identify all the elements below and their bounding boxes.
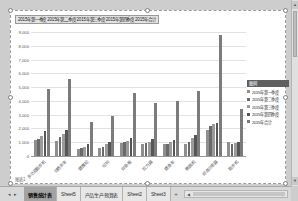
vscroll-up-icon[interactable]: ▲: [292, 1, 298, 9]
plot-area[interactable]: [31, 32, 246, 157]
bar-2015年合计-拉力器[interactable]: [154, 103, 157, 156]
legend-label: 2015年第一季度: [252, 89, 279, 95]
y-tick-label: 2,000: [13, 126, 29, 131]
bar-2015年合计-仰卧板[interactable]: [133, 93, 136, 156]
tab-scroll-right-icon[interactable]: ▸: [14, 191, 17, 197]
selection-handle-top-center[interactable]: [145, 8, 150, 13]
bar-2015年合计-动感单车[interactable]: [68, 79, 71, 156]
y-tick-label: 0: [13, 154, 29, 159]
vertical-scrollbar[interactable]: ▲ ▼: [291, 0, 298, 186]
legend-label: 2015年合计: [252, 119, 271, 125]
legend-marker-icon: [247, 105, 250, 108]
chart-legend[interactable]: 图例 2015年第一季度2015年第二季度2015年第三季度2015年第四季度2…: [247, 80, 289, 126]
sheet-tab-bar: ◂ ▸ 销售统计表Sheet5产品生产预算表Sheet2Sheet3 + ◀ ▶: [0, 186, 291, 201]
y-tick-label: 1,000: [13, 140, 29, 145]
y-tick-label: 7,000: [13, 58, 29, 63]
y-tick-label: 6,000: [13, 71, 29, 76]
y-tick-label: 4,000: [13, 99, 29, 104]
legend-marker-icon: [247, 113, 250, 116]
bar-2015年合计-综合训练器[interactable]: [219, 35, 222, 156]
legend-marker-icon: [247, 98, 250, 101]
selection-handle-mid-left[interactable]: [8, 95, 13, 100]
legend-item[interactable]: 2015年第一季度: [247, 88, 289, 96]
vscroll-thumb[interactable]: [293, 11, 297, 57]
chart-title[interactable]: 2015年第一季度 2015年第二季度 2015年第三季度 2015年第四季度 …: [15, 15, 159, 24]
bar-2015年合计-健腹轮[interactable]: [90, 122, 93, 156]
selection-handle-bottom-center[interactable]: [145, 181, 150, 186]
selection-handle-bottom-left[interactable]: [8, 181, 13, 186]
legend-header[interactable]: 图例: [247, 80, 289, 87]
bar-2015年合计-健身车[interactable]: [176, 101, 179, 156]
y-tick-label: 3,000: [13, 113, 29, 118]
bar-2015年合计-哑铃[interactable]: [111, 116, 114, 156]
sheet-tabs: 销售统计表Sheet5产品生产预算表Sheet2Sheet3: [24, 187, 171, 201]
legend-label: 2015年第三季度: [252, 104, 279, 110]
sheet-tab-Sheet3[interactable]: Sheet3: [147, 187, 171, 201]
bar-2015年合计-多功能跑步机[interactable]: [47, 89, 50, 156]
gridline: [31, 115, 246, 116]
gridline: [31, 32, 246, 33]
sheet-tab-Sheet5[interactable]: Sheet5: [57, 187, 81, 201]
y-tick-label: 8,000: [13, 44, 29, 49]
horizontal-scrollbar[interactable]: ◀ ▶: [184, 190, 288, 198]
gridline: [31, 101, 246, 102]
legend-item[interactable]: 2015年第四季度: [247, 111, 289, 119]
selection-handle-mid-right[interactable]: [283, 95, 288, 100]
chart-name-label: 图表1: [15, 176, 26, 182]
y-tick-label: 9,000: [13, 30, 29, 35]
legend-marker-icon: [247, 90, 250, 93]
y-tick-label: 5,000: [13, 85, 29, 90]
sheet-tab-产品生产预算表[interactable]: 产品生产预算表: [81, 187, 124, 201]
selection-handle-top-left[interactable]: [8, 8, 13, 13]
legend-item[interactable]: 2015年合计: [247, 118, 289, 126]
gridline: [31, 46, 246, 47]
sheet-tab-Sheet2[interactable]: Sheet2: [123, 187, 147, 201]
excel-window: { "chart": { "title": "2015年第一季度 2015年第二…: [0, 0, 298, 201]
gridline: [31, 87, 246, 88]
new-sheet-button[interactable]: +: [171, 187, 182, 201]
tab-scroll-nav[interactable]: ◂ ▸: [0, 187, 24, 201]
hscroll-left-icon[interactable]: ◀: [185, 191, 192, 198]
gridline: [31, 73, 246, 74]
gridline: [31, 60, 246, 61]
legend-label: 2015年第四季度: [252, 111, 279, 117]
tab-scroll-left-icon[interactable]: ◂: [8, 191, 11, 197]
bar-2015年合计-跑步机[interactable]: [240, 109, 243, 156]
embedded-chart[interactable]: 2015年第一季度 2015年第二季度 2015年第三季度 2015年第四季度 …: [10, 10, 286, 184]
legend-label: 2015年第二季度: [252, 96, 279, 102]
sheet-tab-销售统计表[interactable]: 销售统计表: [24, 187, 57, 201]
bar-2015年合计-椭圆机[interactable]: [197, 91, 200, 156]
selection-handle-bottom-right[interactable]: [283, 181, 288, 186]
vscroll-down-icon[interactable]: ▼: [292, 177, 298, 185]
hscroll-thumb[interactable]: [193, 192, 285, 196]
selection-handle-top-right[interactable]: [283, 8, 288, 13]
legend-item[interactable]: 2015年第三季度: [247, 103, 289, 111]
legend-marker-icon: [247, 120, 250, 123]
